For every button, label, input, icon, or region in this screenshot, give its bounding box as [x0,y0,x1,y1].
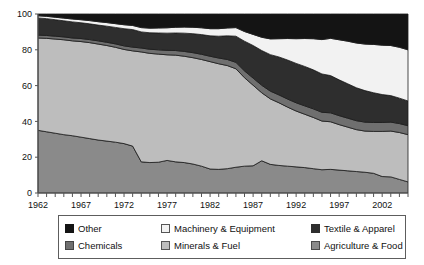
x-tick-label: 1972 [114,200,134,210]
legend-row-1: Other Machinery & Equipment Textile & Ap… [59,220,405,237]
x-tick-label: 1992 [286,200,306,210]
legend-label-agriculture-food: Agriculture & Food [324,241,403,251]
y-tick-label: 20 [22,152,32,162]
legend-item-minerals-fuel[interactable]: Minerals & Fuel [161,241,311,251]
legend-item-agriculture-food[interactable]: Agriculture & Food [311,241,403,251]
x-tick-label: 1977 [157,200,177,210]
y-tick-label: 40 [22,117,32,127]
legend-item-machinery-equipment[interactable]: Machinery & Equipment [161,224,311,234]
legend-label-chemicals: Chemicals [78,241,122,251]
legend-label-textile-apparel: Textile & Apparel [324,224,395,234]
legend-label-minerals-fuel: Minerals & Fuel [174,241,240,251]
x-tick-label: 1987 [243,200,263,210]
legend-swatch-textile-apparel [311,224,320,233]
y-tick-label: 100 [17,9,32,19]
x-tick-label: 1997 [329,200,349,210]
x-tick-label: 2002 [372,200,392,210]
chart-legend: Other Machinery & Equipment Textile & Ap… [58,215,406,259]
chart-page: 0204060801001962196719721977198219871992… [0,0,424,265]
legend-label-other: Other [78,224,102,234]
x-tick-label: 1967 [71,200,91,210]
stacked-area-chart: 0204060801001962196719721977198219871992… [0,0,424,212]
legend-swatch-agriculture-food [311,241,320,250]
legend-swatch-other [65,224,74,233]
legend-swatch-minerals-fuel [161,241,170,250]
x-tick-label: 1982 [200,200,220,210]
legend-row-2: Chemicals Minerals & Fuel Agriculture & … [59,237,405,254]
legend-label-machinery-equipment: Machinery & Equipment [174,224,275,234]
legend-item-other[interactable]: Other [65,224,161,234]
y-tick-label: 0 [27,188,32,198]
legend-swatch-chemicals [65,241,74,250]
legend-item-textile-apparel[interactable]: Textile & Apparel [311,224,395,234]
x-tick-label: 1962 [28,200,48,210]
chart-plot-area: 0204060801001962196719721977198219871992… [0,0,424,212]
y-tick-label: 60 [22,81,32,91]
y-tick-label: 80 [22,45,32,55]
legend-swatch-machinery-equipment [161,224,170,233]
legend-item-chemicals[interactable]: Chemicals [65,241,161,251]
